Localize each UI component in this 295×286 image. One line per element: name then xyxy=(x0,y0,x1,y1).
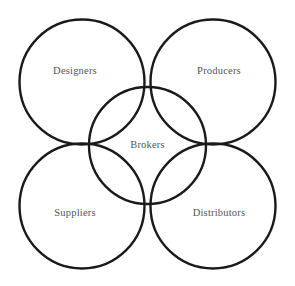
circle-designers xyxy=(20,20,145,145)
venn-diagram-canvas: Designers Producers Suppliers Distributo… xyxy=(0,0,295,286)
label-suppliers: Suppliers xyxy=(54,207,95,218)
label-distributors: Distributors xyxy=(193,207,246,218)
label-producers: Producers xyxy=(197,65,241,76)
circle-producers xyxy=(151,20,276,145)
label-designers: Designers xyxy=(53,65,97,76)
circle-suppliers xyxy=(20,144,145,269)
venn-diagram: Designers Producers Suppliers Distributo… xyxy=(0,0,295,286)
circle-distributors xyxy=(151,144,276,269)
label-brokers: Brokers xyxy=(130,139,165,150)
